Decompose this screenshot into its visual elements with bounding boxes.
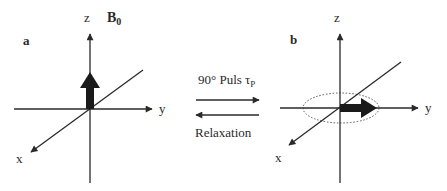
x-label-a: x (16, 151, 23, 166)
x-label-b: x (275, 150, 282, 165)
b0-label: B0 (107, 10, 121, 27)
backward-transition-label: Relaxation (195, 125, 252, 140)
x-axis-b (289, 62, 401, 145)
diagram-canvas: z y x a B0 90° Puls τP Relaxation z y x … (0, 0, 447, 191)
forward-transition-label: 90° Puls τP (198, 72, 255, 89)
z-label-b: z (334, 10, 340, 25)
y-label-a: y (159, 101, 166, 116)
transitions: 90° Puls τP Relaxation (195, 72, 259, 140)
panel-label-a: a (23, 33, 30, 48)
magnetization-arrow-b (340, 98, 377, 118)
panel-label-b: b (290, 32, 297, 47)
panel-a: z y x a B0 (14, 10, 166, 183)
z-label-a: z (84, 10, 90, 25)
panel-b: z y x b (275, 10, 432, 183)
y-label-b: y (425, 100, 432, 115)
